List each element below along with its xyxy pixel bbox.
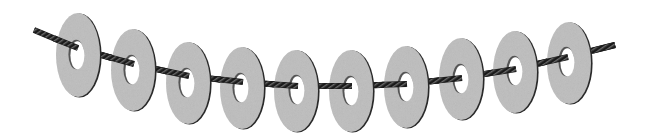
washer-5 [274, 50, 320, 133]
illustration: Washers strung on a twisted cable [0, 0, 646, 138]
washer-4 [220, 47, 266, 130]
cable-front-4 [218, 79, 243, 82]
washer-3 [166, 42, 212, 125]
washer-10 [547, 22, 593, 105]
cable-front-8 [437, 78, 462, 81]
cable-front-9 [491, 69, 516, 73]
cable-front-segment [382, 84, 407, 85]
washer-hole [290, 76, 304, 104]
cable-front-segment [437, 78, 462, 81]
cable-front-segment [272, 84, 298, 86]
washer-6 [329, 50, 375, 133]
washer-1 [56, 13, 102, 98]
washer-2 [111, 29, 157, 112]
cable-front-5 [272, 84, 298, 86]
cable-front-7 [382, 84, 407, 85]
washer-hole [344, 77, 358, 105]
washer-hole [560, 48, 574, 76]
cable-front-segment [218, 79, 243, 82]
washers-on-cable-illustration [0, 0, 646, 138]
washer-hole [399, 73, 413, 101]
